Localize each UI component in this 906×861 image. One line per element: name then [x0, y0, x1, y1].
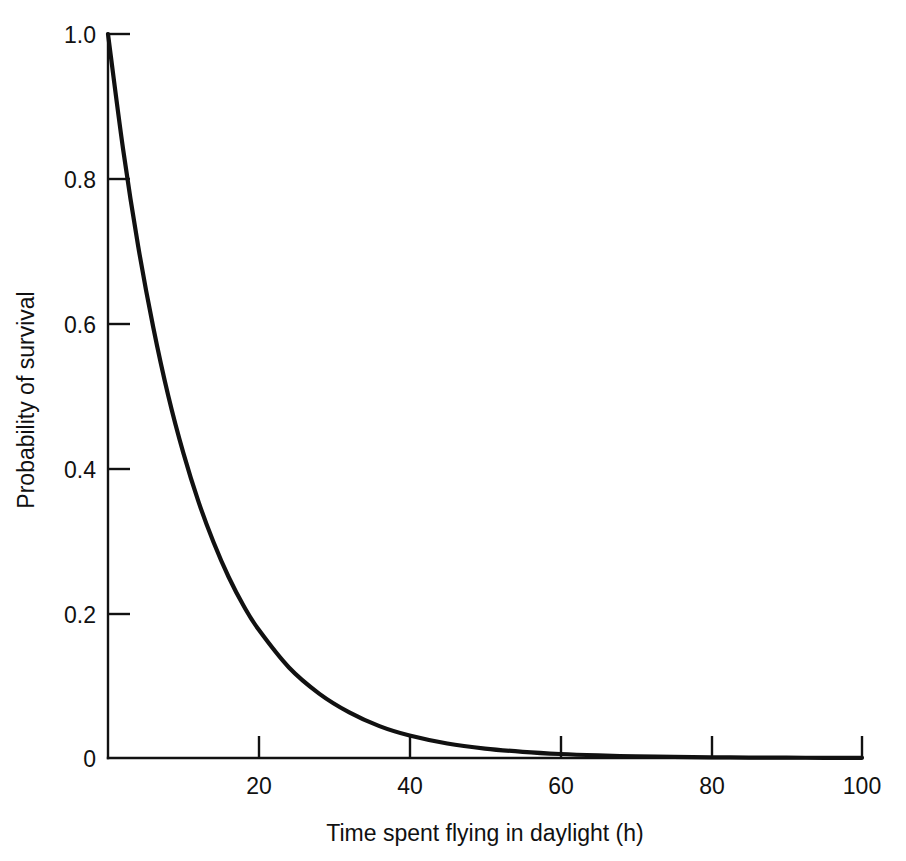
x-tick-labels: 20 40 60 80 100 — [246, 773, 881, 799]
y-tick-label-1-0: 1.0 — [64, 22, 96, 48]
x-tick-label-20: 20 — [246, 773, 272, 799]
y-tick-label-0-4: 0.4 — [64, 457, 96, 483]
x-axis-title: Time spent flying in daylight (h) — [326, 820, 643, 846]
x-tick-label-60: 60 — [548, 773, 574, 799]
x-tick-label-40: 40 — [397, 773, 423, 799]
survival-curve — [108, 34, 862, 758]
chart-canvas: 1.0 0.8 0.6 0.4 0.2 0 20 40 60 80 100 Ti… — [0, 0, 906, 861]
figure-container: 1.0 0.8 0.6 0.4 0.2 0 20 40 60 80 100 Ti… — [0, 0, 906, 861]
x-tick-label-100: 100 — [843, 773, 881, 799]
y-tick-labels: 1.0 0.8 0.6 0.4 0.2 0 — [64, 22, 96, 772]
x-tick-label-80: 80 — [699, 773, 725, 799]
y-tick-label-0: 0 — [83, 746, 96, 772]
y-tick-label-0-2: 0.2 — [64, 602, 96, 628]
y-tick-label-0-8: 0.8 — [64, 167, 96, 193]
y-axis-title: Probability of survival — [13, 291, 39, 508]
y-tick-label-0-6: 0.6 — [64, 312, 96, 338]
